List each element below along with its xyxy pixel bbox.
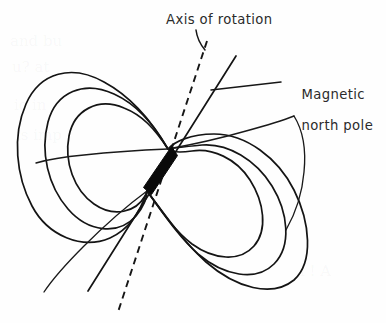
dipole-bar <box>144 147 178 195</box>
figure-canvas <box>0 0 386 323</box>
field-line-left-middle <box>45 88 168 229</box>
label-magnetic-north-pole-line-1: Magnetic <box>301 87 365 102</box>
magnetic-field-figure: and bu u? at ic in is imp i ! A <box>0 0 386 323</box>
magnetic-north-pole-leader <box>211 82 281 90</box>
label-magnetic-north-pole: Magnetic north pole <box>283 71 373 149</box>
field-line-left-inner <box>68 104 168 212</box>
field-line-left-flat <box>36 149 168 163</box>
label-axis-of-rotation: Axis of rotation <box>166 12 273 28</box>
field-line-left-outer <box>17 73 168 243</box>
label-magnetic-north-pole-line-2: north pole <box>301 118 373 133</box>
axis-of-rotation-leader <box>196 30 205 50</box>
